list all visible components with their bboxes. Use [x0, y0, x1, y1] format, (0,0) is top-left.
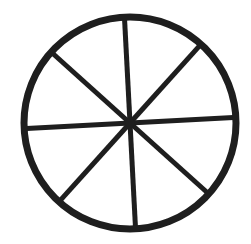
- wheel-spoke: [130, 46, 199, 123]
- wheel-spoke: [27, 123, 130, 128]
- wheel-icon: [0, 0, 251, 244]
- wheel-spoke: [130, 123, 135, 226]
- wheel-spoke: [61, 123, 130, 200]
- wheel-hub: [126, 119, 135, 128]
- wheel-spoke: [130, 123, 207, 192]
- wheel-spoke: [53, 54, 130, 123]
- wheel-spoke: [130, 118, 233, 123]
- wheel-spoke: [125, 20, 130, 123]
- wheel-figure: [0, 0, 251, 244]
